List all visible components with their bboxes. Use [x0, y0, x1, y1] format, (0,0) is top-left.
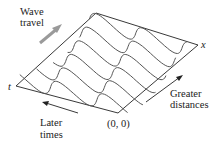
wave-snapshot [20, 75, 128, 113]
later-times-label-line2: times [40, 129, 63, 140]
greater-distances-label-line1: Greater [170, 88, 201, 99]
x-axis-line [96, 13, 198, 45]
wave-travel-label-line1: Wave [20, 6, 44, 17]
later-times-arrow [42, 101, 78, 113]
wave-snapshot [37, 68, 143, 105]
wave-snapshots [20, 13, 187, 112]
wave-travel-label-line2: travel [20, 17, 44, 28]
t-axis-line [16, 86, 118, 113]
t-axis-label: t [8, 81, 11, 92]
later-times-label-line1: Later [40, 117, 62, 128]
wave-snapshot [89, 13, 186, 53]
greater-distances-label-line2: distances [170, 99, 209, 110]
x-axis-label: x [201, 39, 206, 50]
origin-label: (0, 0) [107, 118, 130, 129]
